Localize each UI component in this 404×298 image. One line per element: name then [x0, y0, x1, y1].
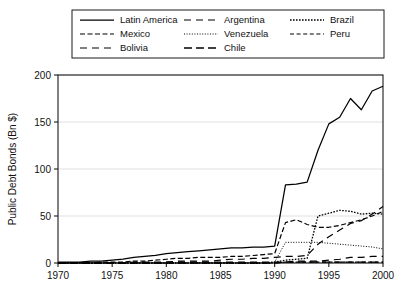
chart-root: Latin AmericaMexicoBoliviaArgentinaVenez… [0, 0, 404, 298]
x-tick-label: 1980 [155, 270, 178, 281]
chart-legend: Latin AmericaMexicoBoliviaArgentinaVenez… [72, 10, 384, 58]
y-tick-label: 50 [40, 211, 52, 222]
legend-label-argentina: Argentina [224, 14, 265, 25]
y-axis-title-text: Public Debt Bonds (Bn $) [7, 113, 18, 225]
y-tick-label: 200 [34, 70, 51, 81]
legend-label-bolivia: Bolivia [120, 42, 149, 53]
legend-label-chile: Chile [224, 42, 246, 53]
y-tick-label: 150 [34, 117, 51, 128]
x-tick-label: 1975 [101, 270, 124, 281]
x-tick-label: 1990 [264, 270, 287, 281]
legend-label-brazil: Brazil [330, 14, 354, 25]
y-tick-label: 0 [45, 258, 51, 269]
y-tick-label: 100 [34, 164, 51, 175]
x-tick-label: 1995 [318, 270, 341, 281]
x-tick-label: 1970 [47, 270, 70, 281]
legend-label-mexico: Mexico [120, 28, 150, 39]
legend-label-peru: Peru [330, 28, 350, 39]
x-tick-label: 2000 [372, 270, 395, 281]
legend-label-venezuela: Venezuela [224, 28, 269, 39]
y-axis-title: Public Debt Bonds (Bn $) [7, 113, 18, 225]
legend-label-latin-america: Latin America [120, 14, 178, 25]
public-debt-bonds-line-chart: Latin AmericaMexicoBoliviaArgentinaVenez… [0, 0, 404, 298]
x-tick-label: 1985 [209, 270, 232, 281]
